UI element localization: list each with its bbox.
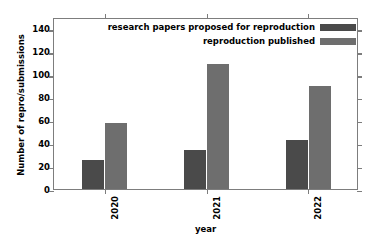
y-tick-mark-right <box>357 53 362 54</box>
x-tick-mark <box>105 189 106 194</box>
legend-label-1: reproduction published <box>203 35 315 47</box>
legend-label-0: research papers proposed for reproductio… <box>108 21 315 33</box>
y-tick-mark <box>49 30 54 31</box>
y-tick-label: 0 <box>24 186 50 195</box>
bar-2021-series-0 <box>184 150 206 189</box>
x-tick-mark <box>207 189 208 194</box>
y-tick-label: 40 <box>24 140 50 149</box>
y-tick-label: 20 <box>24 163 50 172</box>
legend-entry-1: reproduction published <box>118 35 356 47</box>
y-tick-mark <box>49 145 54 146</box>
x-tick-mark-top <box>105 14 106 19</box>
legend: research papers proposed for reproductio… <box>118 21 356 49</box>
x-tick-mark-top <box>207 14 208 19</box>
y-tick-label: 120 <box>24 48 50 57</box>
y-tick-mark <box>49 53 54 54</box>
x-tick-mark-top <box>308 14 309 19</box>
y-tick-label: 140 <box>24 25 50 34</box>
legend-swatch-0 <box>320 24 356 31</box>
y-tick-mark <box>49 122 54 123</box>
legend-entry-0: research papers proposed for reproductio… <box>118 21 356 33</box>
y-tick-mark-right <box>357 191 362 192</box>
y-tick-label: 100 <box>24 71 50 80</box>
y-tick-mark-right <box>357 145 362 146</box>
bar-2020-series-1 <box>105 123 127 190</box>
bar-2020-series-0 <box>82 160 104 189</box>
y-tick-mark <box>49 191 54 192</box>
bar-chart: Number of repro/submissions 020406080100… <box>0 0 377 240</box>
legend-swatch-1 <box>320 38 356 45</box>
bar-2022-series-1 <box>309 86 331 189</box>
y-tick-mark-right <box>357 99 362 100</box>
bar-2021-series-1 <box>207 64 229 189</box>
y-tick-mark-right <box>357 168 362 169</box>
x-tick-mark <box>308 189 309 194</box>
x-axis-title: year <box>53 224 358 234</box>
y-tick-mark-right <box>357 30 362 31</box>
y-tick-mark <box>49 99 54 100</box>
y-tick-mark-right <box>357 122 362 123</box>
bar-2022-series-0 <box>286 140 308 189</box>
y-axis-tick-labels: 020406080100120140 <box>22 18 50 190</box>
y-tick-mark <box>49 76 54 77</box>
y-tick-label: 60 <box>24 117 50 126</box>
y-tick-mark <box>49 168 54 169</box>
y-tick-label: 80 <box>24 94 50 103</box>
y-tick-mark-right <box>357 76 362 77</box>
